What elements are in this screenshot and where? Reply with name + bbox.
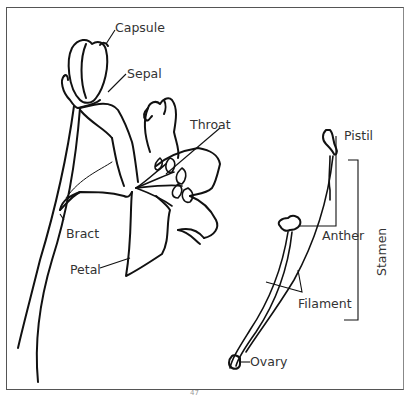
label-anther: Anther (322, 230, 364, 243)
label-ovary: Ovary (250, 356, 287, 369)
label-filament: Filament (298, 298, 352, 311)
label-stamen: Stamen (376, 228, 389, 276)
filament-drawing (230, 232, 288, 368)
capsule-drawing (69, 40, 108, 103)
label-petal: Petal (70, 264, 101, 277)
label-capsule: Capsule (115, 22, 165, 35)
label-bract: Bract (66, 228, 99, 241)
flower-illustration (0, 0, 407, 397)
label-sepal: Sepal (127, 68, 162, 81)
label-pistil: Pistil (344, 130, 373, 143)
page-number: 47 (190, 390, 199, 397)
label-throat: Throat (190, 119, 231, 132)
anther-drawing (279, 216, 301, 231)
pistil-stigma-drawing (323, 130, 337, 155)
